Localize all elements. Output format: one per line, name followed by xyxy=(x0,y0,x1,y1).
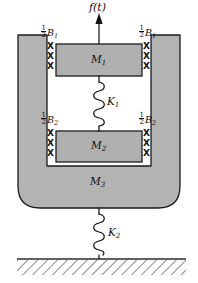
damper-b2-left-fraction: 1 2 xyxy=(41,112,46,126)
damper-b1-right-fraction: 1 2 xyxy=(139,25,144,39)
damper-mark-x: X xyxy=(143,62,150,71)
figure-canvas: f(t) 1 2 B1 1 2 B1 1 2 B2 1 2 B2 X X X X xyxy=(0,0,198,283)
damper-mark-x: X xyxy=(143,139,150,148)
ground-symbol xyxy=(17,259,186,275)
damper-b2-left-label: 1 2 B2 xyxy=(41,112,58,126)
spring-k1-icon xyxy=(94,76,105,131)
damper-b1-left-fraction: 1 2 xyxy=(41,25,46,39)
damper-mark-x: X xyxy=(143,129,150,138)
damper-b1-left-marks: X X X xyxy=(47,42,54,71)
force-arrow-icon xyxy=(95,13,102,44)
spring-k2-label: K2 xyxy=(108,227,120,238)
damper-b2-right-label: 1 2 B2 xyxy=(139,112,156,126)
damper-mark-x: X xyxy=(47,52,54,61)
spring-k1-label: K1 xyxy=(107,96,119,107)
damper-mark-x: X xyxy=(47,62,54,71)
damper-mark-x: X xyxy=(47,139,54,148)
damper-b1-right-label: 1 2 B1 xyxy=(139,25,156,39)
damper-mark-x: X xyxy=(47,149,54,158)
damper-mark-x: X xyxy=(47,129,54,138)
damper-mark-x: X xyxy=(143,42,150,51)
damper-b1-right-marks: X X X xyxy=(143,42,150,71)
damper-mark-x: X xyxy=(143,52,150,61)
damper-b2-right-fraction: 1 2 xyxy=(139,112,144,126)
mass-m3-label: M3 xyxy=(90,176,105,187)
damper-mark-x: X xyxy=(47,42,54,51)
mass-m1-label: M1 xyxy=(91,54,106,65)
damper-b2-right-marks: X X X xyxy=(143,129,150,158)
mass-m2-label: M2 xyxy=(91,140,106,151)
damper-b1-left-label: 1 2 B1 xyxy=(41,25,58,39)
damper-b2-left-marks: X X X xyxy=(47,129,54,158)
force-label: f(t) xyxy=(89,2,106,13)
damper-mark-x: X xyxy=(143,149,150,158)
spring-k2-icon xyxy=(94,208,105,259)
